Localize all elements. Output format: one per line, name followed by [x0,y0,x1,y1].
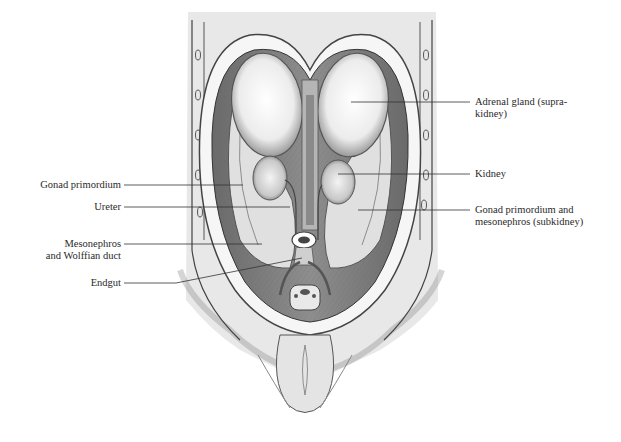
label-ureter: Ureter [94,201,121,213]
label-text: Ureter [94,201,121,212]
label-text: Endgut [91,277,121,288]
label-endgut: Endgut [91,277,121,289]
label-kidney: Kidney [475,168,506,180]
label-adrenal-gland: Adrenal gland (supra- kidney) [475,96,567,120]
label-text-line-1: Adrenal gland (supra- [475,96,567,108]
label-text-line-2: kidney) [475,108,567,120]
label-text-line-2: mesonephros (subkidney) [475,216,583,228]
label-text: Kidney [475,168,506,179]
label-text: Gonad primordium [40,179,121,190]
label-gonad-mesonephros: Gonad primordium and mesonephros (subkid… [475,204,583,228]
label-mesonephros: Mesonephros and Wolffian duct [46,238,121,262]
label-text-line-2: and Wolffian duct [46,250,121,262]
label-text-line-1: Gonad primordium and [475,204,583,216]
label-gonad-primordium: Gonad primordium [40,179,121,191]
label-text-line-1: Mesonephros [46,238,121,250]
